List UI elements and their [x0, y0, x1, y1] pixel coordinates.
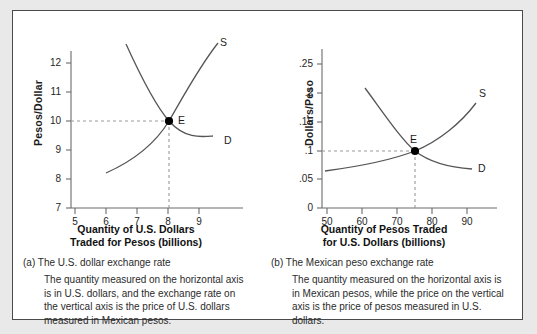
supply-curve-label-panel-a: S	[220, 36, 227, 48]
caption-heading-panel-a: (a) The U.S. dollar exchange rate	[23, 257, 171, 268]
y-tick-label-panel-a: 11	[31, 86, 61, 97]
equilibrium-label-panel-b: E	[410, 133, 417, 145]
x-axis-title-panel-b: Quantity of Pesos Traded for U.S. Dollar…	[267, 223, 501, 249]
demand-curve-label-panel-b: D	[478, 162, 486, 174]
caption-body-panel-b: The quantity measured on the horizontal …	[292, 273, 504, 327]
y-tick-label-panel-b: .05	[279, 173, 313, 184]
equilibrium-point-panel-b	[411, 147, 419, 155]
panel-mexican-peso-exchange-rate: Dollars/Peso	[265, 11, 524, 319]
caption-body-panel-a: The quantity measured on the horizontal …	[44, 273, 250, 327]
y-tick-label-panel-a: 8	[31, 173, 61, 184]
demand-curve-label-panel-a: D	[224, 134, 232, 146]
x-axis-title-panel-a: Quantity of U.S. Dollars Traded for Peso…	[19, 223, 253, 249]
demand-curve-panel-b	[365, 88, 472, 169]
y-tick-label-panel-a: 10	[31, 115, 61, 126]
x-ticks-panel-b	[327, 208, 467, 214]
y-tick-label-panel-b: 0	[279, 202, 313, 213]
y-tick-label-panel-b: .25	[279, 58, 313, 69]
panel-us-dollar-exchange-rate: Pesos/Dollar	[13, 11, 265, 319]
x-ticks-panel-a	[75, 208, 199, 214]
supply-curve-panel-b	[325, 103, 476, 171]
y-ticks-panel-a	[66, 63, 71, 208]
y-tick-label-panel-b: .2	[279, 87, 313, 98]
supply-curve-panel-a	[106, 43, 218, 173]
supply-curve-label-panel-b: S	[479, 87, 486, 99]
figure-container: Pesos/Dollar	[0, 0, 537, 334]
figure-frame: Pesos/Dollar	[12, 10, 523, 320]
caption-heading-panel-b: (b) The Mexican peso exchange rate	[271, 257, 434, 268]
equilibrium-label-panel-a: E	[178, 114, 185, 126]
y-tick-label-panel-a: 7	[31, 202, 61, 213]
y-tick-label-panel-a: 9	[31, 144, 61, 155]
y-tick-label-panel-a: 12	[31, 57, 61, 68]
y-tick-label-panel-b: .1	[279, 145, 313, 156]
y-ticks-panel-b	[317, 64, 322, 208]
y-tick-label-panel-b: .15	[279, 116, 313, 127]
equilibrium-point-panel-a	[165, 117, 173, 125]
